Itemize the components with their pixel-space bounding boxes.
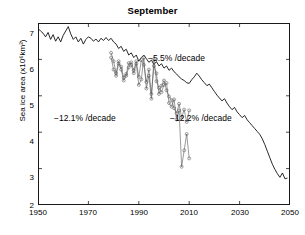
series-line-model-mean [38,27,287,179]
y-tick-5: 5 [30,101,34,110]
x-tick-2030: 2030 [231,208,249,217]
x-tick-2050: 2050 [281,208,299,217]
page-title: September [0,5,305,16]
annotation-model-trend: −5.5% /decade [148,53,205,63]
x-tick-1990: 1990 [130,208,148,217]
data-point-marker [110,51,113,54]
data-series-group [38,27,287,179]
y-axis-tick-labels: 7 6 5 4 3 2 [20,23,34,205]
figure-container: September Sea ice area (x10⁶km²) 7 6 5 4… [0,0,305,235]
x-tick-1950: 1950 [29,208,47,217]
y-tick-7: 7 [30,29,34,38]
x-axis-tick-labels: 1950 1970 1990 2010 2030 2050 [38,208,290,222]
y-tick-6: 6 [30,65,34,74]
y-tick-3: 3 [30,173,34,182]
annotation-obs-trend-left: −12.1% /decade [54,113,116,123]
x-tick-1970: 1970 [79,208,97,217]
y-tick-4: 4 [30,137,34,146]
annotation-obs-trend-right: −12.2% /decade [170,113,232,123]
x-tick-2010: 2010 [180,208,198,217]
